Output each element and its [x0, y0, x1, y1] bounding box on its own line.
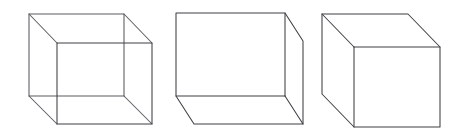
cube-wireframe-depth-edge-bottom-right — [124, 96, 152, 124]
cube-low-front-face-fill — [176, 13, 285, 96]
figure-canvas — [0, 0, 460, 136]
cube-hidden-removed-low — [176, 13, 303, 124]
cube-figures-svg — [0, 0, 460, 136]
cube-wireframe-depth-edge-top-right — [124, 14, 152, 43]
cube-wireframe — [29, 14, 152, 124]
cube-high-front-face-fill — [354, 47, 440, 127]
cube-low-bottom-face-fill — [176, 96, 303, 124]
cube-wireframe-back-face-fill — [29, 14, 124, 96]
cube-wireframe-depth-edge-bottom-left — [29, 96, 57, 124]
cube-hidden-removed-high — [322, 14, 440, 127]
